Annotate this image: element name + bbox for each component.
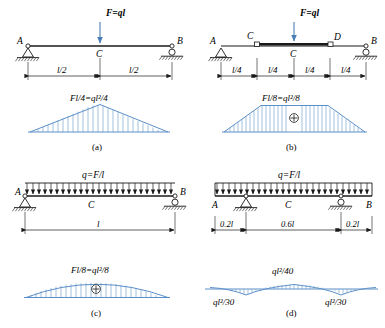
panel-a-dimension-lines: l/2 l/2 bbox=[28, 58, 172, 80]
panel-b-dim-4: l/4 bbox=[341, 65, 351, 75]
panel-d-load-arrows bbox=[217, 183, 367, 194]
panel-d-dim-3: 0.2l bbox=[346, 219, 360, 229]
panel-c-moment-diagram bbox=[24, 283, 170, 298]
panel-b-label-hinge-c: C bbox=[247, 31, 254, 41]
panel-d-left-end-label: ql²/30 bbox=[213, 297, 235, 307]
panel-b-dim-1: l/4 bbox=[232, 65, 242, 75]
panel-d-right-end-label: ql²/30 bbox=[325, 297, 347, 307]
panel-c-node-b bbox=[173, 194, 177, 198]
panel-b-hinge-d bbox=[328, 42, 333, 46]
panel-b-label-b: B bbox=[371, 36, 377, 46]
panel-a-pin-support bbox=[15, 48, 39, 61]
panel-d-pin-support bbox=[233, 198, 257, 211]
panel-d-caption: (d) bbox=[286, 308, 297, 318]
panel-d-roller-support bbox=[328, 199, 352, 210]
panel-c-caption: (c) bbox=[91, 308, 101, 318]
panel-a-moment-diagram bbox=[28, 105, 170, 133]
panel-d-dim-2: 0.6l bbox=[281, 219, 295, 229]
panel-d-label-c: C bbox=[285, 200, 292, 210]
panel-a-label-b: B bbox=[177, 36, 183, 46]
panel-b-load-label: F=ql bbox=[299, 8, 319, 18]
panel-b: F=ql A C D C B l/4 l/4 l/4 l/4 Fl/8=ql²/ bbox=[208, 8, 377, 152]
panel-a-caption: (a) bbox=[92, 142, 102, 152]
panel-c-dimension-lines: l bbox=[25, 212, 175, 234]
panel-d-moment-diagram: ql²/30 ql²/30 bbox=[205, 285, 378, 308]
panel-b-dimension-lines: l/4 l/4 l/4 l/4 bbox=[221, 58, 366, 80]
panel-b-label-c: C bbox=[290, 49, 297, 59]
panel-a-load-label: F=ql bbox=[105, 8, 125, 18]
panel-b-hinge-c bbox=[255, 42, 260, 46]
panel-b-dim-2: l/4 bbox=[268, 65, 278, 75]
panel-c-pin-support bbox=[12, 198, 36, 211]
panel-c-sign-marker bbox=[92, 285, 101, 294]
panel-b-pin-support bbox=[208, 48, 232, 61]
beam-diagrams-svg: F=ql A C B l/2 l/2 Fl/4=ql²/4 bbox=[0, 0, 385, 328]
panel-b-moment-diagram bbox=[222, 106, 367, 133]
panel-b-sign-marker bbox=[290, 114, 299, 123]
panel-c: q=F/l bbox=[12, 170, 186, 318]
panel-a-label-a: A bbox=[16, 36, 23, 46]
panel-b-dim-3: l/4 bbox=[305, 65, 315, 75]
panel-d-load-label: q=F/l bbox=[278, 170, 301, 180]
panel-b-label-a: A bbox=[209, 36, 216, 46]
panel-b-roller-support bbox=[353, 49, 377, 60]
figure-sheet: F=ql A C B l/2 l/2 Fl/4=ql²/4 bbox=[0, 0, 385, 328]
panel-d-dim-1: 0.2l bbox=[220, 219, 234, 229]
panel-b-node-b bbox=[364, 44, 368, 48]
panel-d-dimension-lines: 0.2l 0.6l 0.2l bbox=[215, 212, 372, 234]
panel-c-moment-peak-label: Fl/8=ql²/8 bbox=[70, 265, 109, 275]
panel-d-node-support-right bbox=[339, 194, 343, 198]
panel-d-moment-peak-label: ql²/40 bbox=[272, 266, 294, 276]
panel-d: q=F/l bbox=[205, 170, 378, 318]
panel-c-label-b: B bbox=[180, 187, 186, 197]
panel-c-label-a: A bbox=[14, 187, 21, 197]
panel-c-label-c: C bbox=[88, 200, 95, 210]
panel-a-dim-1: l/2 bbox=[57, 65, 67, 75]
panel-a: F=ql A C B l/2 l/2 Fl/4=ql²/4 bbox=[15, 8, 183, 152]
panel-c-dim-1: l bbox=[97, 219, 100, 229]
panel-b-caption: (b) bbox=[286, 142, 297, 152]
panel-b-moment-peak-label: Fl/8=ql²/8 bbox=[261, 93, 300, 103]
panel-c-roller-support bbox=[162, 199, 186, 210]
panel-a-dim-2: l/2 bbox=[129, 65, 139, 75]
panel-d-label-b: B bbox=[366, 200, 372, 210]
panel-a-node-b bbox=[170, 44, 174, 48]
panel-a-moment-peak-label: Fl/4=ql²/4 bbox=[69, 93, 108, 103]
panel-d-label-a: A bbox=[211, 200, 218, 210]
panel-c-load-label: q=F/l bbox=[82, 170, 105, 180]
panel-b-label-hinge-d: D bbox=[333, 32, 341, 42]
panel-a-roller-support bbox=[159, 49, 183, 60]
panel-c-load-arrows bbox=[27, 183, 171, 194]
panel-a-label-c: C bbox=[96, 49, 103, 59]
